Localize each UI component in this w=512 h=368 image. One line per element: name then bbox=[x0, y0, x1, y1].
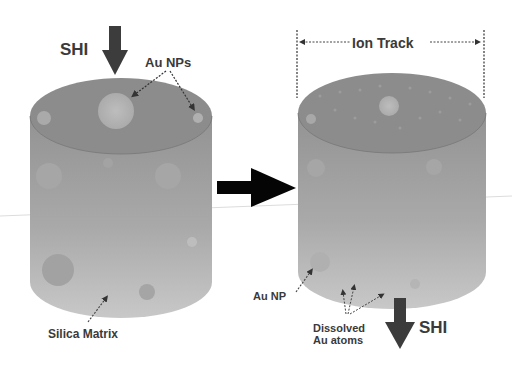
silica-matrix-label: Silica Matrix bbox=[48, 327, 118, 341]
au-nanoparticle bbox=[379, 96, 399, 116]
au-nanoparticle bbox=[139, 284, 155, 300]
dissolved-label-line1: Dissolved bbox=[313, 322, 365, 334]
shi-label-right: SHI bbox=[419, 318, 447, 337]
right-cylinder bbox=[298, 73, 486, 309]
au-nanoparticle bbox=[410, 279, 420, 289]
au-nanoparticle bbox=[155, 163, 181, 189]
diagram-canvas: SHI Au NPs Silica Matrix bbox=[0, 0, 512, 368]
au-nps-label: Au NPs bbox=[145, 55, 191, 70]
au-nanoparticle bbox=[426, 159, 442, 175]
au-nanoparticle bbox=[103, 158, 113, 168]
au-nanoparticle bbox=[307, 159, 325, 177]
au-nanoparticle bbox=[306, 114, 316, 124]
shi-label-left: SHI bbox=[60, 40, 88, 59]
au-nanoparticle bbox=[187, 237, 197, 247]
ion-track-label: Ion Track bbox=[352, 35, 414, 51]
au-nanoparticle bbox=[310, 252, 330, 272]
au-np-label: Au NP bbox=[253, 290, 286, 302]
au-nanoparticle bbox=[42, 254, 74, 286]
left-cylinder bbox=[30, 78, 212, 318]
au-nanoparticle bbox=[193, 113, 203, 123]
shi-incoming-arrow-icon bbox=[102, 26, 128, 75]
dissolved-label-line2: Au atoms bbox=[313, 334, 363, 346]
au-nanoparticle bbox=[98, 93, 134, 129]
au-nanoparticle bbox=[36, 163, 62, 189]
transition-arrow-icon bbox=[217, 168, 296, 207]
au-nanoparticle bbox=[37, 111, 51, 125]
